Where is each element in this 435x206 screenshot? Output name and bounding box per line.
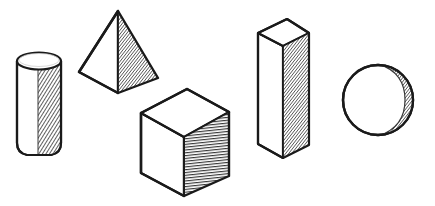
shape-rectangular-prism xyxy=(258,19,309,158)
prism-left-face xyxy=(258,33,283,158)
pyramid-left-face xyxy=(79,11,118,93)
prism-right-face-shading xyxy=(283,33,309,158)
shape-pyramid xyxy=(79,11,158,93)
shape-sphere xyxy=(343,64,415,136)
shape-cylinder xyxy=(17,53,61,156)
cylinder-top-ellipse xyxy=(17,53,61,70)
shape-cube xyxy=(141,89,229,196)
solids-drawing-svg xyxy=(0,0,435,206)
geometric-solids-figure: Cylinder Pyramid Cube Rectangular prism … xyxy=(0,0,435,206)
cylinder-shaded-half xyxy=(38,61,61,155)
